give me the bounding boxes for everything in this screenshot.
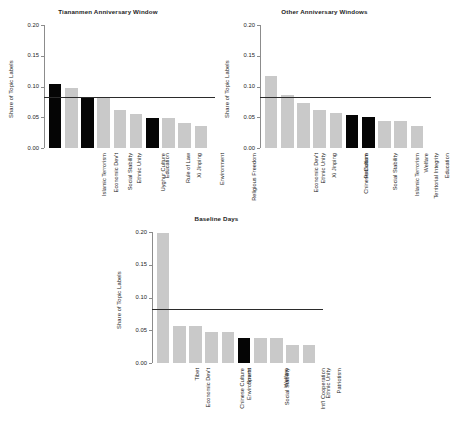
x-axis-category-label: Tibet [194,368,200,380]
bar [313,110,326,148]
chart-panel-other-anniversary-windows: Other Anniversary Windows 0.200.150.100.… [216,8,433,208]
x-axis-category-label: Economic Dev't [113,153,119,192]
y-axis-tick-label: 0.20 [120,229,147,235]
y-axis-title: Share of Topic Labels [224,60,230,118]
bar [362,117,375,148]
y-axis-line [44,25,45,148]
y-axis-tick [257,56,260,57]
y-axis-tick-label: 0.20 [228,22,255,28]
bar [189,326,202,363]
reference-line [152,309,323,310]
x-axis-category-label: Social Stability [127,153,133,190]
y-axis-tick [41,117,44,118]
bars-container [47,25,209,148]
x-axis-category-label: Xi Jinping [331,153,337,178]
bar [222,332,235,363]
bar [378,121,391,148]
y-axis-tick-label: 0.05 [120,327,147,333]
bar [238,338,251,363]
y-axis-tick [257,87,260,88]
bar [130,114,143,148]
y-axis-tick [149,330,152,331]
bar [286,345,299,363]
x-axis-category-label: Ethnic Unity [326,368,332,398]
x-axis-category-label: Welfare [423,153,429,173]
bar [330,113,343,148]
y-axis-tick-label: 0.00 [120,360,147,366]
y-axis-tick-label: 0.10 [120,294,147,300]
x-axis-category-label: Welfare [282,368,288,388]
x-axis-category-label: Patriotism [364,153,370,178]
bar [81,97,94,148]
x-axis-category-label: Xi Jinping [196,153,202,178]
y-axis-tick-label: 0.20 [12,22,39,28]
bar [281,95,294,149]
plot-region: 0.200.150.100.050.00Share of Topic Label… [0,8,216,208]
bar [394,121,407,148]
bars-container [155,232,317,363]
bar [254,338,267,363]
bar [49,84,62,148]
x-axis-category-label: Patriotism [337,368,343,393]
y-axis-tick [41,87,44,88]
x-axis-category-label: Islamic Terrorism [414,153,420,196]
x-axis-category-label: Education [164,153,170,178]
y-axis-tick-label: 0.10 [228,83,255,89]
y-axis-tick-label: 0.05 [228,114,255,120]
bar [97,97,110,148]
y-axis-tick-label: 0.10 [12,83,39,89]
y-axis-tick [257,148,260,149]
x-axis-category-label: Rule of Law [185,153,191,183]
bar [195,126,208,148]
plot-region: 0.200.150.100.050.00Share of Topic Label… [216,8,433,208]
y-axis-tick-label: 0.15 [120,261,147,267]
y-axis-tick-label: 0.00 [12,145,39,151]
y-axis-tick [149,232,152,233]
reference-line [260,97,431,98]
y-axis-tick [41,56,44,57]
x-axis-category-label: Education [445,153,451,178]
y-axis-tick-label: 0.05 [12,114,39,120]
y-axis-tick [149,265,152,266]
bar [297,103,310,149]
reference-line [44,97,215,98]
y-axis-line [152,232,153,363]
chart-panel-tiananmen-anniversary-window: Tiananmen Anniversary Window 0.200.150.1… [0,8,216,208]
x-axis-category-label: Territorial Integrity [433,153,439,199]
x-axis-category-label: Ethnic Unity [137,153,143,183]
bar [303,345,316,363]
y-axis-tick [149,298,152,299]
y-axis-title: Share of Topic Labels [116,271,122,329]
x-axis-category-label: Ethnic Unity [320,153,326,183]
y-axis-tick [257,117,260,118]
bar [178,123,191,148]
y-axis-tick [41,25,44,26]
y-axis-tick-label: 0.15 [228,52,255,58]
y-axis-title: Share of Topic Labels [8,60,14,118]
bar [114,110,127,148]
plot-region: 0.200.150.100.050.00Share of Topic Label… [108,215,325,420]
y-axis-tick [149,363,152,364]
bar [173,326,186,363]
bars-container [263,25,425,148]
bar [205,332,218,363]
chart-panel-baseline-days: Baseline Days 0.200.150.100.050.00Share … [108,215,325,420]
bar [411,126,424,148]
bar [265,76,278,148]
bar [157,233,170,363]
x-axis-category-label: Social Stability [392,153,398,190]
bar [270,338,283,363]
y-axis-tick-label: 0.00 [228,145,255,151]
x-axis-category-label: Sports [247,368,253,384]
y-axis-line [260,25,261,148]
bar [346,115,359,148]
x-axis-category-label: Economic Dev't [313,153,319,192]
y-axis-tick [257,25,260,26]
y-axis-tick-label: 0.15 [12,52,39,58]
bar [146,118,159,148]
y-axis-tick [41,148,44,149]
x-axis-category-label: Islamic Terrorism [101,153,107,196]
x-axis-category-label: Economic Dev't [205,368,211,407]
x-axis-category-label: Chinese Culture [239,368,245,409]
bar [162,118,175,148]
